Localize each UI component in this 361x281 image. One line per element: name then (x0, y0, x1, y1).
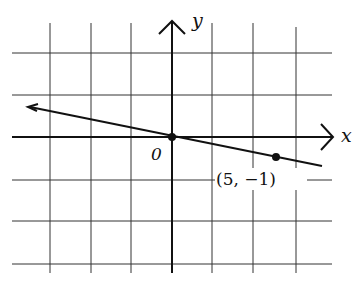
x-axis-label: x (341, 124, 352, 146)
point-5-neg1 (272, 153, 280, 161)
y-axis-label: y (191, 9, 203, 31)
origin-point (168, 133, 176, 141)
coordinate-plane-figure: x y 0 (5, −1) (0, 0, 361, 281)
point-label: (5, −1) (216, 169, 276, 189)
origin-label: 0 (151, 144, 162, 164)
